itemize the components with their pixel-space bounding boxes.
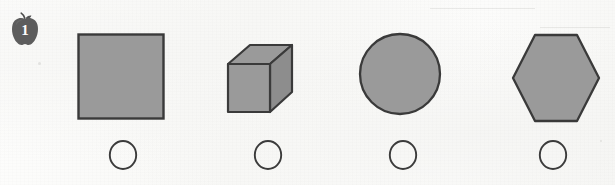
bubble-icon[interactable]	[386, 138, 420, 172]
bubble-icon[interactable]	[251, 138, 285, 172]
square-body	[79, 35, 164, 119]
hexagon-icon	[508, 30, 604, 125]
worksheet-row: 1	[0, 0, 615, 185]
answer-bubble-square[interactable]	[106, 138, 140, 172]
answer-bubble-hexagon[interactable]	[536, 138, 570, 172]
answer-bubble-cube[interactable]	[251, 138, 285, 172]
hexagon-body	[513, 35, 599, 121]
bubble-icon[interactable]	[536, 138, 570, 172]
scan-artifact-line	[540, 27, 610, 28]
shape-cube	[222, 30, 300, 125]
shape-square	[75, 30, 170, 125]
shape-circle	[356, 30, 446, 125]
apple-stem	[21, 13, 25, 18]
cube-front-face	[228, 64, 270, 112]
bubble-outline[interactable]	[390, 141, 416, 169]
cube-icon	[222, 30, 300, 125]
scan-speck	[600, 140, 602, 142]
circle-body	[360, 34, 440, 114]
question-number-marker: 1	[8, 12, 42, 50]
bubble-icon[interactable]	[106, 138, 140, 172]
bubble-outline[interactable]	[540, 141, 566, 169]
apple-body	[12, 18, 38, 45]
scan-speck	[38, 62, 41, 65]
bubble-outline[interactable]	[110, 141, 136, 169]
apple-icon	[8, 12, 42, 50]
scan-artifact-line	[430, 8, 535, 9]
answer-bubble-circle[interactable]	[386, 138, 420, 172]
bubble-outline[interactable]	[255, 141, 281, 169]
shape-hexagon	[508, 30, 604, 125]
circle-icon	[356, 30, 446, 125]
square-icon	[75, 30, 170, 125]
